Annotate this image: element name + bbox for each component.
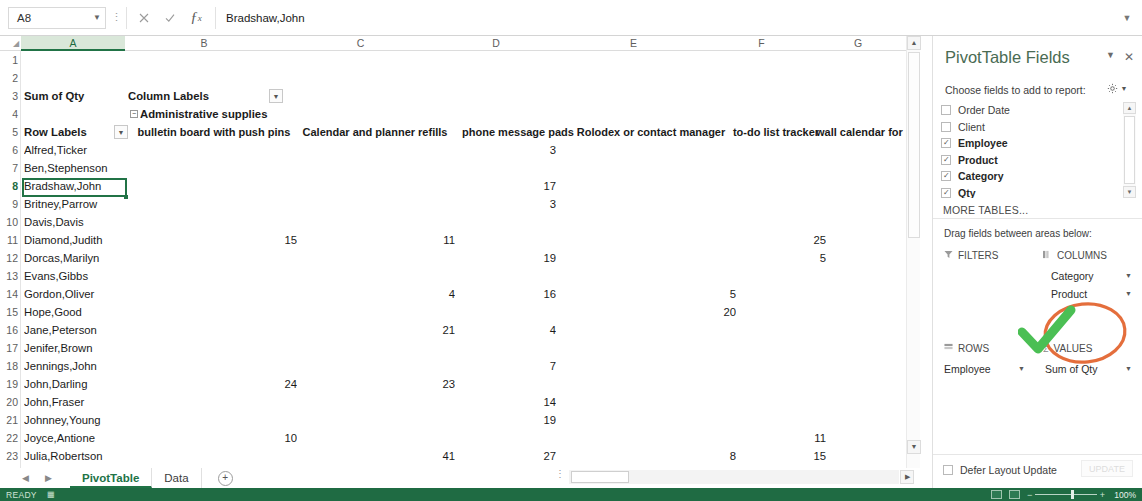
formula-bar-expand-icon[interactable]: ▼	[1118, 13, 1136, 23]
plus-circle-icon[interactable]: +	[218, 471, 233, 486]
minus-icon[interactable]: −	[1027, 490, 1032, 500]
cell-r14-c3-qty[interactable]: 16	[421, 285, 556, 303]
formula-bar-more-icon[interactable]: ⋮	[106, 13, 126, 22]
cell-a19-employee[interactable]: John,Darling	[24, 375, 134, 393]
chevron-down-icon[interactable]: ▼	[1106, 50, 1115, 64]
field-list-scrollbar[interactable]: ▲ ▼	[1123, 102, 1136, 198]
field-checkbox-product[interactable]: ✓	[941, 155, 951, 165]
col-header-product-3[interactable]: phone message pads	[457, 123, 579, 141]
cell-a18-employee[interactable]: Jennings,John	[24, 357, 134, 375]
collapse-category-icon[interactable]: −	[130, 110, 138, 118]
cell-r6-c3-qty[interactable]: 3	[421, 141, 556, 159]
page-layout-icon[interactable]	[1009, 490, 1020, 499]
row-header-13[interactable]: 13	[0, 267, 21, 285]
vertical-scrollbar[interactable]: ▲ ▼	[906, 36, 920, 468]
cell-r11-c5-qty[interactable]: 25	[726, 231, 826, 249]
column-header-f[interactable]: F	[713, 36, 810, 51]
plus-icon[interactable]: +	[1100, 490, 1105, 500]
name-box[interactable]: A8 ▼	[8, 7, 106, 29]
field-checkbox-order-date[interactable]	[941, 105, 951, 115]
field-checkbox-qty[interactable]: ✓	[941, 188, 951, 198]
col-header-product-6[interactable]: wall calendar for pl	[816, 123, 916, 141]
spreadsheet-grid[interactable]: ◢ A B C D E F G 123456789101112131415161…	[0, 36, 920, 468]
cell-r23-c4-qty[interactable]: 8	[566, 447, 736, 465]
fill-handle[interactable]	[124, 195, 128, 199]
cell-r19-c2-qty[interactable]: 23	[295, 375, 455, 393]
normal-view-icon[interactable]	[991, 490, 1002, 499]
column-header-d[interactable]: D	[438, 36, 554, 51]
cell-r11-c1-qty[interactable]: 15	[131, 231, 297, 249]
field-scroll-down-icon[interactable]: ▼	[1123, 186, 1136, 198]
more-tables-link[interactable]: MORE TABLES...	[943, 204, 1028, 216]
row-header-7[interactable]: 7	[0, 159, 21, 177]
cell-a17-employee[interactable]: Jenifer,Brown	[24, 339, 134, 357]
cell-r12-c5-qty[interactable]: 5	[726, 249, 826, 267]
row-header-5[interactable]: 5	[0, 123, 21, 141]
col-header-product-1[interactable]: bulletin board with push pins	[131, 123, 297, 141]
row-header-14[interactable]: 14	[0, 285, 21, 303]
cell-a9-employee[interactable]: Britney,Parrow	[24, 195, 134, 213]
sheet-tab-pivottable[interactable]: PivotTable	[70, 468, 152, 488]
cell-a22-employee[interactable]: Joyce,Antione	[24, 429, 134, 447]
cell-r20-c3-qty[interactable]: 14	[421, 393, 556, 411]
rows-field-employee[interactable]: Employee	[944, 361, 1014, 376]
chevron-down-icon[interactable]: ▼	[1121, 85, 1128, 92]
values-field-sum-of-qty[interactable]: Sum of Qty	[1045, 361, 1121, 376]
cell-a23-employee[interactable]: Julia,Robertson	[24, 447, 134, 465]
field-item-qty[interactable]: ✓Qty	[941, 185, 1121, 199]
row-header-12[interactable]: 12	[0, 249, 21, 267]
row-header-18[interactable]: 18	[0, 357, 21, 375]
cell-a13-employee[interactable]: Evans,Gibbs	[24, 267, 134, 285]
values-sumofqty-caret-icon[interactable]: ▼	[1125, 365, 1132, 372]
formula-input[interactable]: Bradshaw,John	[215, 7, 1106, 29]
row-header-16[interactable]: 16	[0, 321, 21, 339]
field-item-employee[interactable]: ✓Employee	[941, 135, 1121, 152]
cell-r23-c3-qty[interactable]: 27	[421, 447, 556, 465]
field-list[interactable]: Order DateClient✓Employee✓Product✓Catego…	[941, 102, 1121, 198]
cell-a14-employee[interactable]: Gordon,Oliver	[24, 285, 134, 303]
column-header-a[interactable]: A	[21, 36, 125, 51]
record-macro-icon[interactable]: ▦	[47, 490, 55, 499]
cell-b4-category-group[interactable]: Administrative supplies	[140, 105, 330, 123]
cell-r18-c3-qty[interactable]: 7	[421, 357, 556, 375]
row-header-20[interactable]: 20	[0, 393, 21, 411]
row-header-23[interactable]: 23	[0, 447, 21, 465]
cell-a10-employee[interactable]: Davis,Davis	[24, 213, 134, 231]
row-header-21[interactable]: 21	[0, 411, 21, 429]
col-header-product-4[interactable]: Rolodex or contact manager	[566, 123, 736, 141]
row-header-19[interactable]: 19	[0, 375, 21, 393]
field-item-client[interactable]: Client	[941, 119, 1121, 136]
columns-category-caret-icon[interactable]: ▼	[1125, 272, 1132, 279]
row-header-17[interactable]: 17	[0, 339, 21, 357]
row-header-1[interactable]: 1	[0, 51, 21, 69]
zoom-slider[interactable]: − +	[1027, 490, 1105, 499]
cell-r22-c1-qty[interactable]: 10	[131, 429, 297, 447]
columns-field-product[interactable]: Product	[1051, 286, 1121, 301]
zoom-knob[interactable]	[1071, 490, 1074, 499]
cell-r11-c2-qty[interactable]: 11	[295, 231, 455, 249]
chevron-down-icon[interactable]: ▼	[93, 13, 101, 22]
column-header-e[interactable]: E	[554, 36, 713, 51]
row-header-3[interactable]: 3	[0, 87, 21, 105]
defer-layout-checkbox[interactable]	[943, 465, 953, 475]
horizontal-scroll-thumb[interactable]	[571, 471, 629, 483]
cell-a7-employee[interactable]: Ben,Stephenson	[24, 159, 134, 177]
cell-a15-employee[interactable]: Hope,Good	[24, 303, 134, 321]
cell-a16-employee[interactable]: Jane,Peterson	[24, 321, 134, 339]
cell-r19-c1-qty[interactable]: 24	[131, 375, 297, 393]
columns-field-category[interactable]: Category	[1051, 268, 1121, 283]
row-header-22[interactable]: 22	[0, 429, 21, 447]
field-checkbox-category[interactable]: ✓	[941, 171, 951, 181]
horizontal-scrollbar[interactable]: ⋮ ◀ ▶	[555, 468, 920, 486]
split-handle-icon[interactable]: ⋮	[555, 471, 565, 477]
col-header-product-5[interactable]: to-do list tracker	[726, 123, 826, 141]
cell-r16-c3-qty[interactable]: 4	[421, 321, 556, 339]
scroll-down-icon[interactable]: ▼	[907, 440, 921, 454]
field-checkbox-client[interactable]	[941, 122, 951, 132]
row-labels-filter-icon[interactable]: ▼	[114, 125, 128, 139]
row-header-2[interactable]: 2	[0, 69, 21, 87]
chevron-right-icon[interactable]: ▶	[45, 473, 52, 483]
cell-b3-column-labels[interactable]: Column Labels	[128, 87, 258, 105]
field-list-tools-button[interactable]: ▼	[1100, 79, 1134, 97]
cell-r23-c5-qty[interactable]: 15	[726, 447, 826, 465]
